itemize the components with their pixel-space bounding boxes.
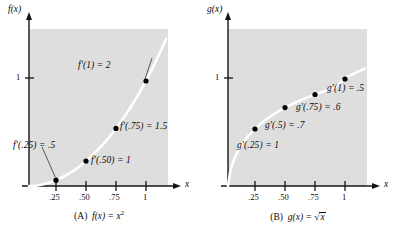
annotation-f-prime-025: f′(.25) = .5 [13, 141, 55, 151]
x-tick-label-a-050: .50 [79, 193, 90, 202]
data-point-f-025 [53, 178, 58, 183]
annotation-f-prime-050: f′(.50) = 1 [91, 156, 131, 166]
caption-panel-b: (B) g(x) = √x [199, 212, 397, 223]
caption-a-prefix: (A) [74, 211, 87, 221]
data-point-g-05 [282, 105, 287, 110]
caption-a-arg: (x) = x [95, 211, 121, 221]
panel-b-plot [199, 0, 397, 232]
x-tick-label-b-1: 1 [342, 193, 346, 202]
y-axis-arrowhead [26, 12, 32, 20]
annotation-g-prime-075: g′(.75) = .6 [296, 103, 341, 113]
caption-b-radicand: x [319, 212, 325, 223]
derivative-comparison-figure: f(x) x 1 .25 .50 .75 1 f′(1) = 2 f′(.75)… [0, 0, 397, 232]
data-point-f-1 [143, 78, 148, 83]
y-axis-label-b: g(x) [207, 5, 222, 15]
data-point-g-075 [312, 92, 317, 97]
x-axis-arrowhead [173, 183, 181, 189]
x-tick-label-b-025: .25 [248, 193, 259, 202]
y-axis-arrowhead [225, 12, 231, 20]
x-tick-label-a-1: 1 [143, 193, 147, 202]
x-axis-label-a: x [185, 180, 189, 190]
annotation-g-prime-05: g′(.5) = .7 [265, 121, 305, 131]
annotation-g-prime-025: g′(.25) = 1 [237, 141, 279, 151]
data-point-f-075 [113, 126, 118, 131]
caption-a-exponent: 2 [121, 209, 124, 216]
x-tick-label-a-025: .25 [49, 193, 60, 202]
panel-b-square-root: g(x) x 1 .25 .50 .75 1 g′(1) = .5 g′(.75… [199, 0, 397, 232]
panel-a-plot [0, 0, 198, 232]
data-point-f-050 [83, 159, 88, 164]
caption-b-prefix: (B) [270, 212, 283, 222]
annotation-f-prime-1: f′(1) = 2 [78, 61, 111, 71]
annotation-g-prime-1: g′(1) = .5 [327, 84, 364, 94]
annotation-f-prime-075: f′(.75) = 1.5 [120, 122, 167, 132]
x-axis-arrowhead [372, 183, 380, 189]
x-tick-label-a-075: .75 [109, 193, 120, 202]
caption-panel-a: (A) f(x) = x2 [0, 212, 198, 222]
caption-b-arg: (x) = [293, 212, 315, 222]
data-point-g-1 [342, 76, 347, 81]
x-tick-label-b-050: .50 [278, 193, 289, 202]
y-tick-label-b-1: 1 [215, 73, 219, 82]
y-tick-label-a-1: 1 [16, 73, 20, 82]
x-tick-label-b-075: .75 [308, 193, 319, 202]
data-point-g-025 [252, 126, 257, 131]
x-axis-label-b: x [384, 180, 388, 190]
y-axis-label-a: f(x) [8, 5, 21, 15]
panel-a-parabola: f(x) x 1 .25 .50 .75 1 f′(1) = 2 f′(.75)… [0, 0, 198, 232]
